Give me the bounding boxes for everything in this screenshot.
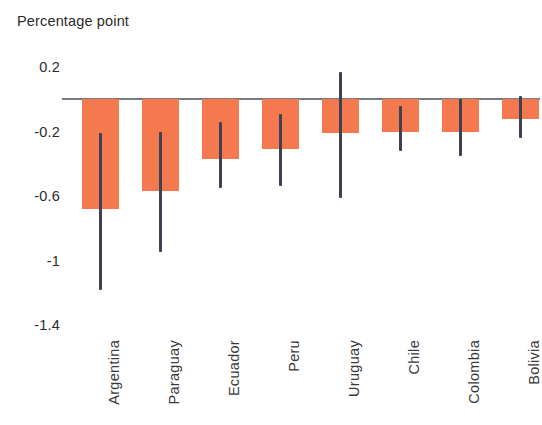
x-tick-label: Bolivia	[526, 340, 542, 385]
x-tick-label-text: Uruguay	[346, 340, 362, 397]
error-bar	[99, 133, 102, 289]
error-bar	[279, 114, 282, 187]
x-tick-label: Chile	[406, 340, 422, 375]
y-tick-label: -0.2	[0, 124, 60, 140]
x-axis-tick-labels: ArgentinaParaguayEcuadorPeruUruguayChile…	[62, 340, 542, 425]
x-tick-label-text: Bolivia	[526, 340, 542, 385]
error-bar	[219, 122, 222, 188]
error-bar	[159, 132, 162, 253]
error-bar	[339, 72, 342, 198]
plot-area	[62, 0, 542, 340]
y-tick-label: -0.6	[0, 188, 60, 204]
x-tick-label: Peru	[286, 340, 302, 372]
x-tick-label: Ecuador	[226, 340, 242, 396]
x-tick-label-text: Ecuador	[226, 340, 242, 396]
x-tick-label: Uruguay	[346, 340, 362, 397]
y-tick-label: -1.4	[0, 317, 60, 333]
x-tick-label-text: Chile	[406, 340, 422, 375]
error-bar	[459, 99, 462, 155]
y-tick-label: -1	[0, 253, 60, 269]
x-tick-label-text: Colombia	[466, 340, 482, 404]
error-bar	[519, 96, 522, 138]
y-axis-tick-labels: 0.2-0.2-0.6-1-1.4	[0, 0, 60, 425]
bar-chart: Percentage point 0.2-0.2-0.6-1-1.4 Argen…	[0, 0, 542, 425]
error-bar	[399, 106, 402, 151]
x-tick-label-text: Paraguay	[166, 340, 182, 404]
x-tick-label-text: Argentina	[106, 340, 122, 405]
x-tick-label-text: Peru	[286, 340, 302, 372]
x-tick-label: Colombia	[466, 340, 482, 404]
y-tick-label: 0.2	[0, 59, 60, 75]
x-tick-label: Paraguay	[166, 340, 182, 404]
x-tick-label: Argentina	[106, 340, 122, 405]
